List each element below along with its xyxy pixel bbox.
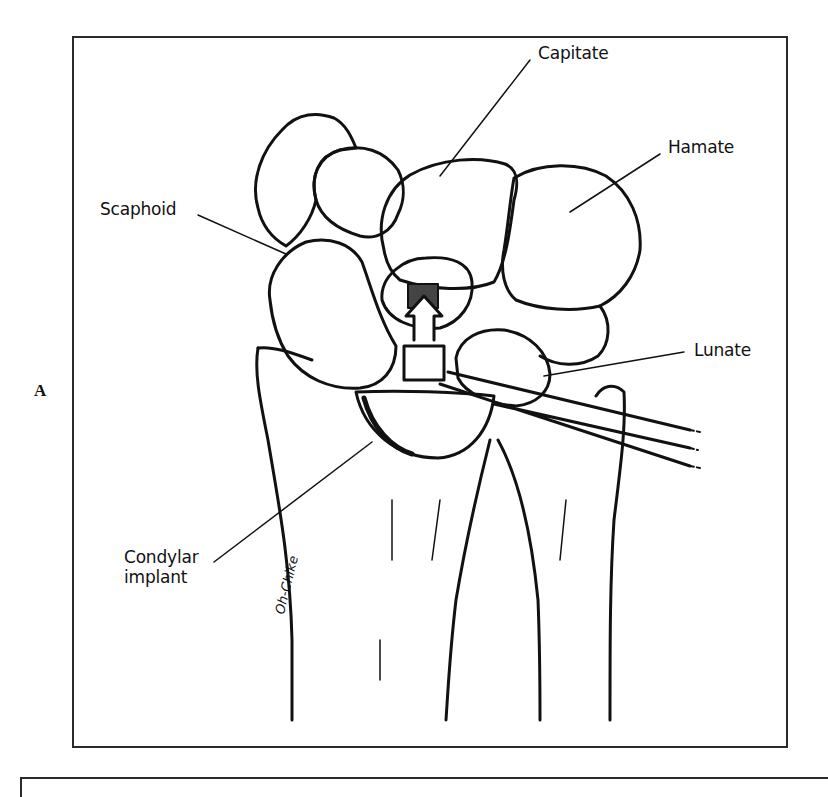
label-lunate: Lunate (694, 341, 751, 361)
label-condylar-implant: Condylar implant (124, 548, 198, 587)
trapezium-bone (255, 114, 356, 246)
ulna-bone (498, 440, 540, 720)
label-scaphoid: Scaphoid (100, 200, 176, 220)
label-hamate: Hamate (668, 138, 734, 158)
scaphoid-bone (269, 240, 396, 388)
hamate-leader (570, 154, 660, 212)
radius-bone (257, 348, 292, 720)
hamate-bone (503, 166, 641, 310)
label-condylar-line1: Condylar (124, 547, 198, 567)
trapezoid-bone (314, 148, 403, 237)
label-condylar-line2: implant (124, 567, 187, 587)
condylar-implant-leader (214, 442, 372, 562)
label-capitate: Capitate (538, 44, 608, 64)
